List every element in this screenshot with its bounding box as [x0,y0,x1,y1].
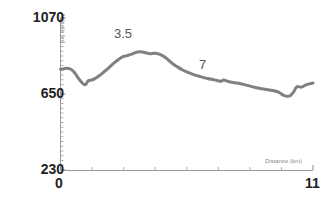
x-axis-title: Distance (km) [265,158,302,164]
data-point-annotation-midpoint: 7 [199,57,206,72]
y-axis-tick-label-max: 1070 [33,9,64,25]
x-axis-ticks [61,165,314,170]
axis-lines [60,18,313,171]
x-axis-tick-label-start: 0 [55,175,63,191]
data-point-annotation-peak: 3.5 [114,26,132,41]
elevation-line-series [61,52,314,97]
elevation-profile-chart: Altitude [m] Distance (km) 1070 650 230 … [0,0,332,201]
y-axis-tick-label-mid: 650 [41,85,64,101]
x-axis-tick-label-end: 11 [305,175,320,191]
